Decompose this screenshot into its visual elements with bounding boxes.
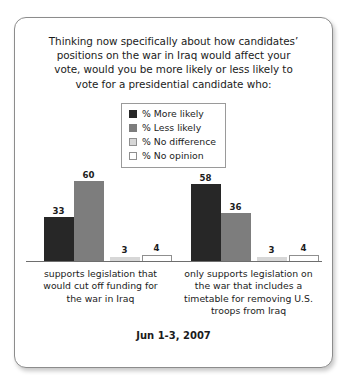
bar-value-label: 4 [289, 243, 319, 253]
legend-item-label: % Less likely [142, 123, 201, 133]
category-label: only supports legislation on the war tha… [176, 268, 322, 318]
bar [221, 213, 251, 261]
bar [44, 217, 74, 261]
bar-value-label: 4 [142, 243, 172, 253]
bar [191, 184, 221, 261]
category-label-line: supports legislation that [28, 268, 174, 280]
bar-value-label: 33 [44, 206, 74, 216]
chart-legend: % More likely % Less likely % No differe… [121, 103, 226, 168]
legend-item-less-likely: % Less likely [129, 122, 216, 135]
category-label-line: timetable for removing U.S. [176, 293, 322, 305]
legend-item-more-likely: % More likely [129, 108, 216, 121]
survey-date-label: Jun 1-3, 2007 [136, 330, 211, 341]
bar-value-label: 36 [221, 202, 251, 212]
legend-swatch-icon [129, 152, 137, 160]
legend-item-no-difference: % No difference [129, 136, 216, 149]
chart-title-line: vote, would you be more likely or less l… [35, 62, 313, 76]
chart-title-line: positions on the war in Iraq would affec… [35, 48, 313, 62]
bar-value-label: 60 [74, 170, 104, 180]
bar-group: 58 36 3 4 [191, 180, 319, 261]
bar-value-label: 3 [257, 245, 287, 255]
chart-plot-area: 33 60 3 4 58 36 [26, 180, 322, 262]
chart-title: Thinking now specifically about how cand… [35, 34, 313, 91]
legend-swatch-icon [129, 124, 137, 132]
category-label-line: troops from Iraq [176, 305, 322, 317]
bar-value-label: 3 [110, 245, 140, 255]
category-label-line: the war in Iraq [28, 293, 174, 305]
bar-value-label: 58 [191, 173, 221, 183]
legend-swatch-icon [129, 110, 137, 118]
category-labels: supports legislation that would cut off … [26, 268, 322, 324]
legend-item-label: % More likely [142, 109, 204, 119]
category-label-line: would cut off funding for [28, 280, 174, 292]
legend-swatch-icon [129, 138, 137, 146]
chart-card: Thinking now specifically about how cand… [14, 17, 333, 368]
bar-group: 33 60 3 4 [44, 180, 172, 261]
category-label-line: the war that includes a [176, 280, 322, 292]
legend-item-label: % No difference [142, 137, 216, 147]
legend-item-no-opinion: % No opinion [129, 150, 216, 163]
category-label: supports legislation that would cut off … [28, 268, 174, 305]
chart-title-line: vote for a presidential candidate who: [35, 77, 313, 91]
axis-baseline [26, 261, 322, 262]
chart-title-line: Thinking now specifically about how cand… [35, 34, 313, 48]
legend-item-label: % No opinion [142, 151, 204, 161]
category-label-line: only supports legislation on [176, 268, 322, 280]
bar [74, 181, 104, 261]
